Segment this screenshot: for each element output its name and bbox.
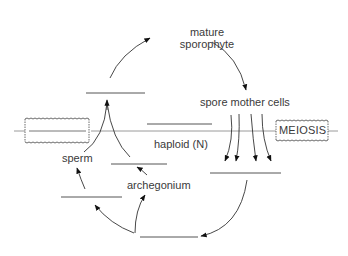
meiosis-label: MEIOSIS	[279, 124, 326, 136]
archegonium-label: archegonium	[127, 179, 191, 191]
mature-label-line1: mature	[172, 26, 242, 38]
arrow-meiosis-2	[236, 114, 239, 161]
sporophyte-label-line2: sporophyte	[172, 38, 242, 50]
arrow-meiosis-1	[225, 115, 232, 161]
arrow-to-sporophyte	[110, 38, 150, 78]
cycle-arrows	[77, 38, 271, 236]
arrow-meiosis-4	[262, 114, 271, 161]
arrow-archegonium-up	[107, 103, 130, 157]
arrow-to-archegonium-blank	[137, 167, 147, 175]
arrow-to-left-blank	[95, 205, 134, 233]
arrow-meiosis-3	[251, 114, 256, 161]
mature-sporophyte-label: mature sporophyte	[172, 26, 242, 50]
arrow-to-archegonium	[135, 195, 145, 233]
fertilization-box	[25, 118, 91, 143]
sperm-label: sperm	[62, 152, 93, 164]
answer-blanks	[61, 93, 281, 237]
spore-mother-cells-label: spore mother cells	[200, 96, 290, 108]
arrow-to-bottom	[201, 180, 247, 236]
arrow-to-sperm	[77, 168, 85, 189]
haploid-label: haploid (N)	[154, 138, 208, 150]
